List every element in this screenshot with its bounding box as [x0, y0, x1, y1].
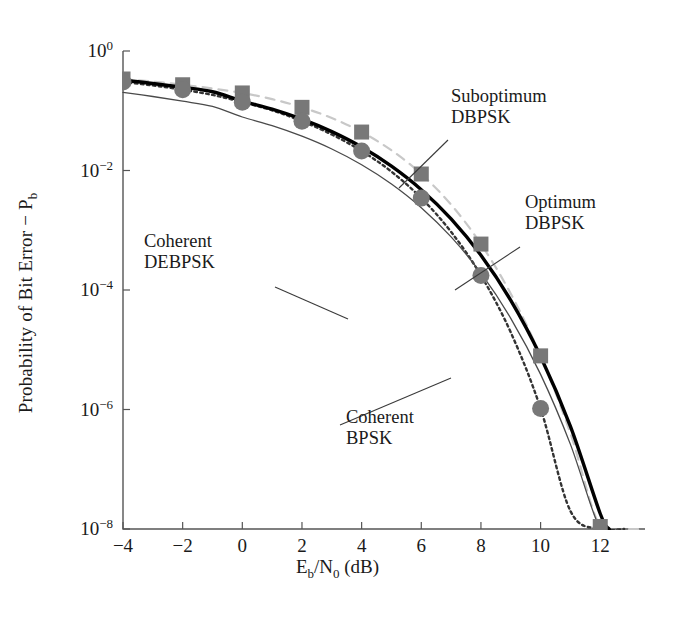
series-line-optimum-dbpsk: [123, 82, 624, 530]
x-tick-label: −2: [163, 535, 203, 557]
x-tick-label: 2: [282, 535, 322, 557]
x-tick-label: 12: [580, 535, 620, 557]
chart-figure: Probability of Bit Error − Pb Eb/N0 (dB)…: [0, 0, 675, 644]
x-tick-label: 4: [342, 535, 382, 557]
x-tick-label: 8: [461, 535, 501, 557]
y-tick-label: 10−6: [61, 397, 113, 421]
data-marker-circle: [413, 190, 430, 207]
series-layer: [115, 72, 646, 536]
data-marker-square: [414, 167, 429, 182]
data-marker-square: [533, 348, 548, 363]
y-tick-label: 10−2: [61, 158, 113, 182]
series-line-suboptimum-dbpsk: [123, 79, 645, 534]
axis-frame: [123, 51, 645, 529]
x-tick-label: 10: [521, 535, 561, 557]
data-marker-square: [473, 237, 488, 252]
annotation-leader-line: [275, 287, 348, 319]
annotation-line-2: DEBPSK: [144, 252, 215, 273]
annotation-dbpsk: OptimumDBPSK: [525, 192, 596, 235]
x-tick-label: 6: [401, 535, 441, 557]
data-marker-circle: [532, 400, 549, 417]
annotation-line-2: DBPSK: [451, 107, 547, 128]
annotation-bpsk: CoherentBPSK: [346, 407, 414, 450]
annotation-line-2: BPSK: [346, 428, 414, 449]
data-marker-circle: [293, 113, 310, 130]
data-marker-circle: [115, 74, 132, 91]
x-tick-label: 0: [222, 535, 262, 557]
annotation-line-1: Optimum: [525, 192, 596, 213]
y-axis-label: Probability of Bit Error − Pb: [15, 63, 41, 543]
data-marker-square: [354, 125, 369, 140]
annotation-line-1: Suboptimum: [451, 86, 547, 107]
y-axis-label-text: Probability of Bit Error − Pb: [15, 192, 36, 413]
annotation-dbpsk: SuboptimumDBPSK: [451, 86, 547, 129]
annotation-debpsk: CoherentDEBPSK: [144, 231, 215, 274]
y-tick-label: 10−4: [61, 277, 113, 301]
data-marker-circle: [174, 81, 191, 98]
y-tick-label: 100: [61, 38, 113, 62]
data-marker-square: [294, 100, 309, 115]
annotation-line-2: DBPSK: [525, 213, 596, 234]
annotation-line-1: Coherent: [144, 231, 215, 252]
chart-svg: [0, 0, 675, 644]
annotation-line-1: Coherent: [346, 407, 414, 428]
y-tick-label: 10−8: [61, 516, 113, 540]
series-line-coherent-bpsk: [123, 92, 618, 535]
x-axis-label-text: Eb/N0 (dB): [296, 556, 379, 577]
data-marker-square: [593, 519, 608, 534]
x-axis-label: Eb/N0 (dB): [0, 556, 675, 582]
data-marker-circle: [234, 94, 251, 111]
data-marker-circle: [353, 143, 370, 160]
